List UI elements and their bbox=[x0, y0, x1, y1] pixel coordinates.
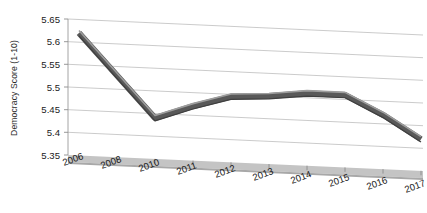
gridline-5.65 bbox=[68, 19, 423, 35]
y-axis-title: Democracy Score (1-10) bbox=[9, 40, 19, 136]
gridline-5.40 bbox=[68, 132, 423, 148]
chart-floor-3d bbox=[68, 155, 423, 180]
x-tick-label: 2008 bbox=[99, 153, 123, 171]
x-tick-label: 2006 bbox=[61, 150, 85, 168]
y-tick-label: 5.65 bbox=[41, 14, 60, 25]
series-democracy-score bbox=[79, 31, 421, 142]
series-line-highlight bbox=[79, 31, 421, 137]
chart-container: 5.65 5.6 5.55 5.5 5.45 5.4 5.35 Democrac… bbox=[0, 0, 427, 213]
y-tick-label: 5.5 bbox=[47, 82, 60, 93]
y-tick-label: 5.6 bbox=[47, 36, 60, 47]
gridline-5.60 bbox=[68, 42, 423, 58]
y-tick-label: 5.45 bbox=[41, 104, 60, 115]
gridline-5.45 bbox=[68, 110, 423, 126]
x-tick-label: 2017 bbox=[403, 177, 427, 195]
y-tick-label: 5.55 bbox=[41, 59, 60, 70]
y-axis bbox=[64, 19, 68, 155]
y-tick-label: 5.35 bbox=[41, 150, 60, 161]
y-tick-labels: 5.65 5.6 5.55 5.5 5.45 5.4 5.35 bbox=[41, 14, 60, 161]
line-chart-3d: 5.65 5.6 5.55 5.5 5.45 5.4 5.35 Democrac… bbox=[0, 0, 427, 213]
y-tick-label: 5.4 bbox=[47, 127, 61, 138]
floor-top-face bbox=[68, 155, 423, 178]
